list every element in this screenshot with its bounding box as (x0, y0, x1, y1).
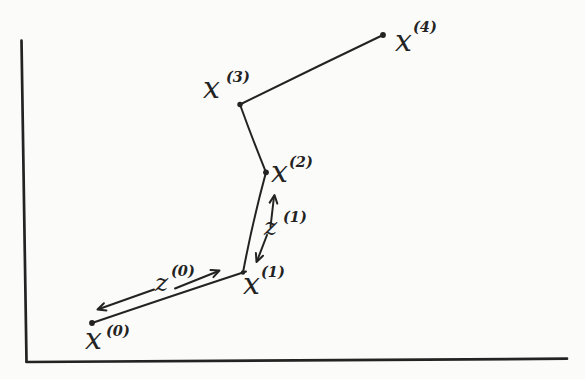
direction-arrow-z0-backward (98, 290, 155, 311)
point-label-base: x (395, 23, 412, 58)
point-label-base: x (85, 321, 102, 356)
point-label-base: x (203, 70, 220, 105)
direction-label-base: z (263, 212, 278, 241)
point-label-superscript: (3) (226, 68, 250, 85)
point-label-x2: x (2) (271, 153, 313, 189)
point-label-superscript: (1) (261, 263, 285, 280)
point-label-x0: x (0) (85, 321, 130, 356)
figure-canvas: x (0) x (1) x (2) x (3) x (4) z (0) z (1… (0, 0, 585, 379)
path-segment-x0-x1 (92, 272, 246, 324)
point-label-superscript: (0) (106, 322, 130, 339)
y-axis-line (22, 41, 27, 362)
direction-label-z0: z (0) (154, 262, 195, 297)
x-axis-line (27, 359, 568, 362)
point-label-base: x (243, 266, 260, 301)
path-segment-x3-x4 (240, 35, 383, 105)
diagram-svg: x (0) x (1) x (2) x (3) x (4) z (0) z (1… (0, 0, 585, 379)
point-label-x1: x (1) (243, 263, 285, 301)
direction-label-z1: z (1) (263, 208, 307, 241)
direction-label-superscript: (1) (283, 208, 307, 225)
point-label-superscript: (2) (289, 153, 313, 170)
point-label-base: x (271, 154, 288, 189)
point-dot-x3 (237, 102, 242, 107)
arrow-shaft (99, 290, 154, 310)
point-label-x4: x (4) (395, 18, 437, 58)
point-label-superscript: (4) (413, 18, 437, 35)
point-label-x3: x (3) (203, 68, 250, 105)
path-segment-x2-x3 (240, 105, 266, 173)
direction-label-base: z (154, 268, 169, 297)
point-dot-x2 (263, 169, 269, 175)
point-dot-x4 (380, 32, 386, 38)
direction-label-superscript: (0) (171, 262, 195, 279)
